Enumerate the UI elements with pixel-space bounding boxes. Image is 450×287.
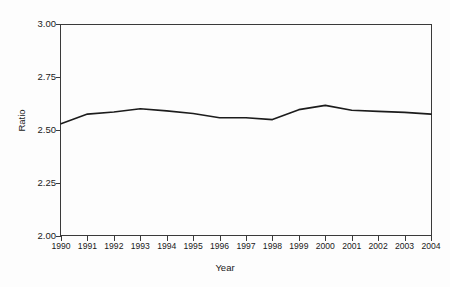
y-tick-label: 2.75 [12, 72, 56, 82]
line-chart: 3.00 2.75 2.50 2.25 2.00 199019911992199… [0, 0, 450, 287]
x-axis: 1990199119921993199419951996199719981999… [0, 241, 450, 255]
x-tick-label: 2004 [414, 241, 448, 252]
y-tick-label: 3.00 [12, 19, 56, 29]
y-tick-label: 2.25 [12, 178, 56, 188]
series-line-ratio [61, 105, 431, 123]
y-tick-label: 2.00 [12, 231, 56, 241]
y-axis-title: Ratio [16, 91, 27, 151]
x-axis-title: Year [0, 262, 450, 273]
data-series-layer [60, 24, 432, 236]
